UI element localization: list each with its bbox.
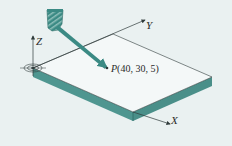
cnc-coordinate-diagram: Z Y X P(40, 30, 5)	[0, 0, 232, 146]
point-p-label: P(40, 30, 5)	[111, 64, 159, 74]
z-axis-label: Z	[36, 36, 42, 47]
workpiece-slab	[33, 34, 212, 121]
y-axis-label: Y	[146, 20, 152, 31]
point-p-marker	[106, 67, 109, 70]
x-axis-label: X	[171, 115, 178, 126]
point-coordinates: (40, 30, 5)	[117, 63, 159, 74]
